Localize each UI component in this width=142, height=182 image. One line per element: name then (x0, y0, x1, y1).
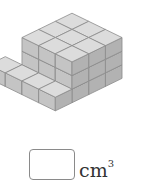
unit-label: cm3 (79, 157, 114, 180)
answer-input-box[interactable] (29, 149, 75, 180)
cube-stack-figure (0, 0, 142, 135)
answer-row: cm3 (0, 146, 142, 182)
unit-cubes (0, 13, 122, 111)
unit-text: cm (79, 159, 108, 181)
unit-exponent: 3 (108, 158, 114, 169)
